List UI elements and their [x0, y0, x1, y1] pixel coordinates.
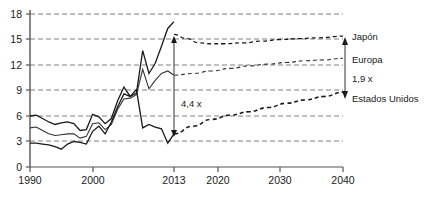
- series-line-europa-history: [30, 69, 174, 138]
- ratio-2040-arrowhead-down: [342, 91, 348, 99]
- y-tick-label-3: 3: [16, 135, 22, 147]
- series-label-europa: Europa: [352, 54, 383, 65]
- y-tick-label-12: 12: [10, 59, 22, 71]
- x-tick-label-2030: 2030: [268, 174, 292, 186]
- ratio-2013-label: 4,4 x: [181, 98, 202, 109]
- y-tick-label-18: 18: [10, 8, 22, 20]
- ratio-2040-label: 1,9 x: [352, 73, 373, 84]
- annotation-ratio-2040: 1,9 x: [342, 37, 373, 99]
- chart-container: 18 15 12 9 6 3 0 1990 2000 2013 2020 203…: [0, 0, 425, 208]
- series-line-japon-history: [30, 22, 174, 131]
- series-label-japon: Japón: [352, 31, 378, 42]
- x-tick-label-2013: 2013: [162, 174, 186, 186]
- series-line-europa-forecast: [174, 58, 343, 75]
- annotation-ratio-2013: 4,4 x: [171, 36, 202, 137]
- x-tick-label-2040: 2040: [331, 174, 355, 186]
- y-tick-label-15: 15: [10, 33, 22, 45]
- x-tick-label-2020: 2020: [206, 174, 230, 186]
- y-tick-label-9: 9: [16, 84, 22, 96]
- y-tick-label-6: 6: [16, 110, 22, 122]
- x-tick-label-2000: 2000: [81, 174, 105, 186]
- x-axis: 1990 2000 2013 2020 2030 2040: [18, 167, 355, 186]
- y-tick-label-0: 0: [16, 161, 22, 173]
- line-chart: 18 15 12 9 6 3 0 1990 2000 2013 2020 203…: [0, 0, 425, 208]
- gridlines: [30, 14, 343, 141]
- series-lines: [30, 22, 343, 149]
- y-axis: 18 15 12 9 6 3 0: [10, 8, 30, 173]
- ratio-2040-arrowhead-up: [342, 37, 348, 45]
- series-labels: Japón Europa Estados Unidos: [352, 31, 419, 104]
- x-tick-label-1990: 1990: [18, 174, 42, 186]
- series-label-estados-unidos: Estados Unidos: [352, 93, 419, 104]
